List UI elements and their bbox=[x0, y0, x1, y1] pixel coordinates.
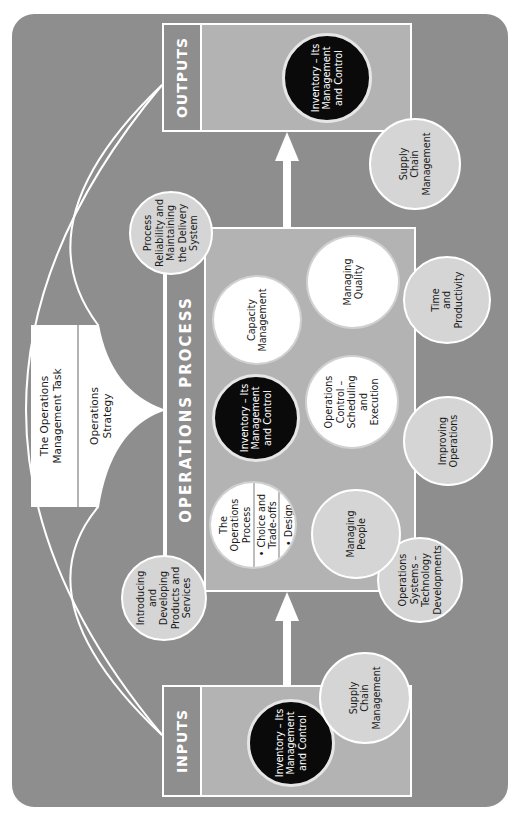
operations-process-bullet-design: • Design bbox=[278, 483, 295, 567]
capacity-management-text: Capacity Management bbox=[246, 288, 269, 351]
introducing-products-circle: Introducing and Developing Products and … bbox=[121, 555, 207, 641]
operations-management-diagram: The Operations Management Task Operation… bbox=[0, 0, 521, 821]
managing-people-circle: Managing People bbox=[311, 489, 401, 579]
outputs-label: OUTPUTS bbox=[164, 25, 202, 130]
operations-control-circle: Operations Control – Scheduling and Exec… bbox=[307, 357, 397, 447]
operations-systems-text: Operations Systems – Technology Developm… bbox=[397, 545, 443, 615]
inputs-label: INPUTS bbox=[164, 687, 202, 795]
operations-process-label: OPERATIONS PROCESS bbox=[167, 229, 206, 590]
time-productivity-text: Time and Productivity bbox=[430, 272, 465, 329]
outputs-inventory-circle: Inventory – Its Management and Control bbox=[282, 33, 372, 123]
operations-process-split-circle: The Operations Process • Choice and Trad… bbox=[211, 483, 295, 567]
improving-operations-circle: Improving Operations bbox=[403, 396, 493, 486]
process-reliability-text: Process Reliability and Maintaining the … bbox=[142, 199, 200, 267]
process-inventory-circle: Inventory – Its Management and Control bbox=[212, 374, 300, 462]
outputs-supply-chain-text: Supply Chain Management bbox=[398, 132, 433, 195]
outputs-inventory-text: Inventory – Its Management and Control bbox=[310, 44, 345, 112]
inputs-supply-chain-circle: Supply Chain Management bbox=[319, 652, 411, 744]
managing-quality-text: Managing Quality bbox=[342, 258, 365, 305]
time-productivity-circle: Time and Productivity bbox=[403, 256, 491, 344]
outputs-supply-chain-circle: Supply Chain Management bbox=[369, 118, 461, 210]
process-inventory-text: Inventory – Its Management and Control bbox=[239, 384, 274, 452]
introducing-products-text: Introducing and Developing Products and … bbox=[135, 561, 193, 635]
improving-operations-text: Improving Operations bbox=[437, 415, 460, 468]
managing-quality-circle: Managing Quality bbox=[308, 237, 398, 327]
capacity-management-circle: Capacity Management bbox=[214, 277, 300, 363]
operations-process-bullet-choice: • Choice and Trade-offs bbox=[253, 483, 279, 567]
operations-control-text: Operations Control – Scheduling and Exec… bbox=[323, 375, 381, 428]
inputs-supply-chain-text: Supply Chain Management bbox=[348, 666, 383, 729]
operations-management-task-label: The Operations Management Task bbox=[38, 341, 64, 491]
inputs-inventory-text: Inventory – Its Management and Control bbox=[274, 709, 309, 777]
operations-strategy-label: Operations Strategy bbox=[88, 371, 114, 461]
operations-process-title: The Operations Process bbox=[211, 483, 255, 567]
process-reliability-circle: Process Reliability and Maintaining the … bbox=[129, 191, 213, 275]
managing-people-text: Managing People bbox=[345, 510, 368, 557]
